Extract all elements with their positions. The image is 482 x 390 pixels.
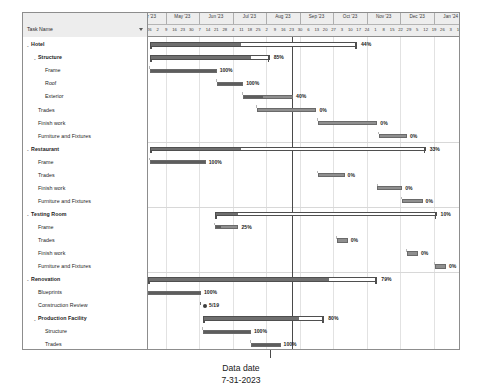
progress-label: 0% xyxy=(319,107,326,113)
timeline-day-tick-label: 3 xyxy=(450,27,452,32)
task-row[interactable]: ‐Hotel xyxy=(23,38,148,51)
task-row[interactable]: Exterior xyxy=(23,90,148,103)
dependency-link xyxy=(149,158,150,161)
task-bar-progress xyxy=(151,161,205,163)
timeline-day-tick-label: 16 xyxy=(172,27,177,32)
summary-bar[interactable] xyxy=(148,277,377,282)
task-bar[interactable] xyxy=(402,199,422,203)
task-row[interactable]: Furniture and Fixtures xyxy=(23,260,148,273)
collapse-toggle-icon[interactable]: ‐ xyxy=(27,148,29,153)
summary-bar[interactable] xyxy=(150,42,357,47)
task-bar[interactable] xyxy=(251,343,281,347)
task-bar[interactable] xyxy=(150,160,206,164)
collapse-toggle-icon[interactable]: ‐ xyxy=(27,44,29,49)
task-name-label: Trades xyxy=(38,172,55,178)
timeline-day-tick-label: 2 xyxy=(157,27,159,32)
task-bar[interactable] xyxy=(243,95,293,99)
collapse-toggle-icon[interactable]: ‐ xyxy=(27,213,29,218)
task-bar[interactable] xyxy=(318,173,345,177)
task-row[interactable]: Finish work xyxy=(23,116,148,129)
timeline-day-tick-label: 24 xyxy=(365,27,370,32)
collapse-toggle-icon[interactable]: ‐ xyxy=(27,278,29,283)
task-bar-progress xyxy=(204,331,250,333)
task-bar[interactable] xyxy=(215,225,238,229)
task-row[interactable]: Construction Review xyxy=(23,299,148,312)
summary-bar[interactable] xyxy=(215,212,437,217)
task-bar-row: 44% xyxy=(148,38,459,51)
task-row[interactable]: Frame xyxy=(23,64,148,77)
task-bar[interactable] xyxy=(379,134,407,138)
task-bar[interactable] xyxy=(257,108,316,112)
collapse-toggle-icon[interactable]: ‐ xyxy=(34,318,36,323)
task-bar[interactable] xyxy=(150,69,217,73)
task-row[interactable]: ‐Production Facility xyxy=(23,312,148,325)
timeline-day-tick-label: 12 xyxy=(423,27,428,32)
task-bar[interactable] xyxy=(203,330,251,334)
timeline-day-tick-label: 27 xyxy=(331,27,336,32)
task-row[interactable]: ‐Renovation xyxy=(23,273,148,286)
task-name-label: Frame xyxy=(38,224,54,230)
dependency-link xyxy=(214,223,215,226)
gantt-frame: Apr '23May '23Jun '23Jul '23Aug '23Sep '… xyxy=(22,12,460,350)
task-name-label: Furniture and Fixtures xyxy=(38,263,91,269)
timeline-month-tick xyxy=(300,13,301,24)
task-row[interactable]: Blueprints xyxy=(23,286,148,299)
chevron-down-icon[interactable] xyxy=(139,28,143,31)
task-bar[interactable] xyxy=(407,251,418,255)
progress-label: 33% xyxy=(430,146,440,152)
task-row[interactable]: ‐Testing Room xyxy=(23,208,148,221)
task-row[interactable]: Structure xyxy=(23,325,148,338)
task-row[interactable]: Trades xyxy=(23,103,148,116)
task-row[interactable]: Frame xyxy=(23,221,148,234)
summary-bar-progress xyxy=(151,148,241,151)
task-bar-progress xyxy=(218,83,243,85)
collapse-toggle-icon[interactable]: ‐ xyxy=(34,57,36,62)
timeline-month-label: Jul '23 xyxy=(243,14,256,19)
timeline-month-tick xyxy=(400,13,401,24)
task-name-header-label: Task Name xyxy=(27,26,53,32)
task-row[interactable]: Furniture and Fixtures xyxy=(23,195,148,208)
dependency-link xyxy=(216,79,217,82)
task-row[interactable]: Trades xyxy=(23,169,148,182)
task-bar-row: 40% xyxy=(148,90,459,103)
task-row[interactable]: Trades xyxy=(23,234,148,247)
task-row[interactable]: ‐Structure xyxy=(23,51,148,64)
task-bar[interactable] xyxy=(435,264,446,268)
task-row[interactable]: Furniture and Fixtures xyxy=(23,129,148,142)
milestone-marker[interactable] xyxy=(203,304,207,308)
task-bar-row: 25% xyxy=(148,221,459,234)
summary-bar-progress xyxy=(151,43,241,46)
task-row[interactable]: Finish work xyxy=(23,247,148,260)
timeline-day-tick-label: 20 xyxy=(323,27,328,32)
task-name-label: Frame xyxy=(38,159,54,165)
summary-bar[interactable] xyxy=(150,55,270,60)
timeline-day-tick-label: 4 xyxy=(232,27,234,32)
task-row[interactable]: Frame xyxy=(23,155,148,168)
task-row[interactable]: Finish work xyxy=(23,182,148,195)
task-row[interactable]: Roof xyxy=(23,77,148,90)
task-name-label: Restaurant xyxy=(31,146,59,152)
task-bar[interactable] xyxy=(337,238,348,242)
milestone-date-label: 5/19 xyxy=(209,302,219,308)
task-bar[interactable] xyxy=(318,121,377,125)
task-bar[interactable] xyxy=(217,82,244,86)
summary-bar[interactable] xyxy=(150,147,426,152)
task-row[interactable]: Trades xyxy=(23,338,148,350)
dependency-link xyxy=(256,105,257,108)
timeline-month-tick xyxy=(199,13,200,24)
dependency-link xyxy=(406,249,407,252)
dependency-link xyxy=(336,236,337,239)
progress-label: 0% xyxy=(426,198,433,204)
task-row[interactable]: ‐Restaurant xyxy=(23,142,148,155)
summary-bar[interactable] xyxy=(203,316,325,321)
task-bar-progress xyxy=(149,292,200,294)
progress-label: 40% xyxy=(296,93,306,99)
task-name-column-header[interactable]: Task Name xyxy=(23,13,148,37)
task-bar[interactable] xyxy=(148,291,201,295)
gantt-plot-area: 44%85%100%100%40%0%0%0%33%100%0%0%0%10%2… xyxy=(148,37,459,349)
task-bar[interactable] xyxy=(377,186,402,190)
task-name-label: Renovation xyxy=(31,276,60,282)
dependency-link xyxy=(149,66,150,69)
milestone-tick xyxy=(200,302,201,305)
timeline-day-tick-label: 29 xyxy=(407,27,412,32)
